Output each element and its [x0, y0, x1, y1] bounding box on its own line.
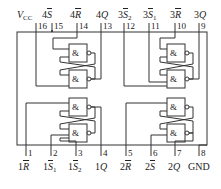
svg-text:8: 8 [201, 148, 206, 158]
pin-label-15: 4S [42, 9, 52, 20]
latch-4: & & [36, 30, 101, 88]
latch-2: & & [126, 98, 193, 145]
svg-text:11: 11 [151, 21, 160, 31]
svg-text:14: 14 [79, 21, 89, 31]
svg-text:1: 1 [28, 148, 33, 158]
svg-text:12: 12 [126, 21, 135, 31]
svg-text:16: 16 [38, 21, 48, 31]
latch-diagram: & & & & & [0, 0, 221, 189]
svg-text:9: 9 [201, 21, 206, 31]
pin-label-12: 3S2 [118, 9, 132, 22]
svg-text:7: 7 [177, 148, 182, 158]
bottom-pin-labels: 1R 1S1 1S2 1Q 2R 2S 2Q GND [18, 161, 210, 174]
svg-text:&: & [72, 74, 79, 84]
svg-text:4: 4 [103, 148, 108, 158]
pin-label-6: 2S [145, 161, 155, 172]
pin-label-4: 1Q [95, 161, 108, 172]
svg-text:2: 2 [53, 148, 58, 158]
svg-text:3: 3 [78, 148, 83, 158]
pin-label-2: 1S1 [43, 161, 57, 174]
svg-text:&: & [72, 48, 79, 58]
pin-label-3: 1S2 [68, 161, 82, 174]
svg-text:&: & [72, 102, 79, 112]
bottom-pin-numbers: 1 2 3 4 5 6 7 8 [28, 148, 206, 158]
pin-label-16: VCC [17, 9, 33, 22]
svg-text:5: 5 [128, 148, 133, 158]
svg-text:&: & [170, 74, 177, 84]
svg-text:13: 13 [103, 21, 113, 31]
pin-label-5: 2R [120, 161, 131, 172]
pin-label-10: 3R [170, 9, 181, 20]
svg-text:10: 10 [177, 21, 187, 31]
pin-label-9: 3Q [194, 9, 207, 20]
svg-text:&: & [170, 48, 177, 58]
pin-label-8: GND [188, 161, 210, 172]
pin-label-13: 4Q [96, 9, 109, 20]
svg-text:15: 15 [54, 21, 64, 31]
svg-text:&: & [170, 102, 177, 112]
top-pin-numbers: 16 15 14 13 12 11 10 9 [38, 21, 206, 31]
pin-label-1: 1R [18, 161, 29, 172]
latch-1: & & [26, 98, 101, 145]
bottom-pin-stubs [26, 145, 199, 156]
pin-label-14: 4R [70, 9, 81, 20]
svg-text:&: & [72, 128, 79, 138]
latch-3: & & [124, 32, 199, 88]
svg-text:6: 6 [153, 148, 158, 158]
pin-label-11: 3S1 [143, 9, 157, 22]
svg-text:&: & [170, 128, 177, 138]
pin-label-7: 2Q [168, 161, 181, 172]
